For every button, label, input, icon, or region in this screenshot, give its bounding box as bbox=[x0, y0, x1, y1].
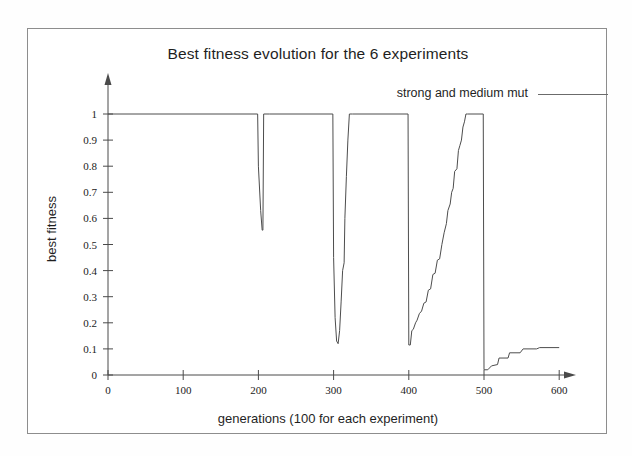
chart-plot-area: 0 0.1 0.2 0.3 0.4 0.5 0.6 0.7 0.8 0.9 1 bbox=[28, 29, 608, 435]
y-tick-label: 0.4 bbox=[83, 265, 97, 277]
y-tick-label: 0 bbox=[92, 369, 98, 381]
y-axis bbox=[105, 73, 112, 375]
screenshot-page: Best fitness evolution for the 6 experim… bbox=[0, 0, 632, 456]
x-tick-label: 200 bbox=[250, 384, 267, 396]
y-tick-label: 0.6 bbox=[83, 212, 97, 224]
y-tick-label: 1 bbox=[92, 108, 98, 120]
x-axis-arrowhead bbox=[564, 372, 576, 379]
y-tick-label: 0.8 bbox=[83, 160, 97, 172]
x-tick-label: 500 bbox=[476, 384, 493, 396]
fitness-series-line bbox=[108, 114, 559, 370]
figure-frame: Best fitness evolution for the 6 experim… bbox=[27, 28, 607, 434]
x-tick-label: 0 bbox=[105, 384, 111, 396]
x-tick-label: 400 bbox=[401, 384, 418, 396]
y-tick-label: 0.9 bbox=[83, 134, 97, 146]
y-tick-label: 0.5 bbox=[83, 239, 97, 251]
x-tick-label: 300 bbox=[325, 384, 342, 396]
y-axis-arrowhead bbox=[105, 73, 112, 85]
y-axis-title: best fitness bbox=[44, 196, 59, 262]
x-axis-title: generations (100 for each experiment) bbox=[218, 411, 438, 426]
y-tick-label: 0.3 bbox=[83, 291, 97, 303]
x-tick-label: 600 bbox=[551, 384, 568, 396]
x-axis-tick-labels: 0 100 200 300 400 500 600 bbox=[105, 384, 568, 396]
y-tick-label: 0.7 bbox=[83, 186, 97, 198]
y-tick-label: 0.1 bbox=[83, 343, 97, 355]
x-tick-label: 100 bbox=[175, 384, 192, 396]
x-axis bbox=[108, 372, 576, 379]
y-axis-tick-labels: 0 0.1 0.2 0.3 0.4 0.5 0.6 0.7 0.8 0.9 1 bbox=[83, 108, 97, 381]
y-tick-label: 0.2 bbox=[83, 317, 97, 329]
